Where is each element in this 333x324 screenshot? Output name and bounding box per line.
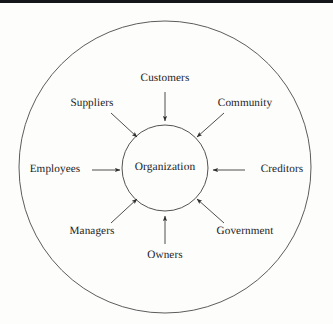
arrow-suppliers bbox=[111, 113, 137, 137]
stakeholder-label-employees: Employees bbox=[30, 164, 81, 175]
stakeholder-label-suppliers: Suppliers bbox=[70, 98, 113, 109]
arrow-community bbox=[197, 113, 224, 137]
diagram-canvas: Organization Customers Suppliers Communi… bbox=[0, 0, 333, 324]
stakeholder-label-customers: Customers bbox=[141, 73, 190, 84]
stakeholder-label-owners: Owners bbox=[147, 250, 182, 261]
stakeholder-label-government: Government bbox=[217, 226, 274, 237]
arrow-managers bbox=[111, 199, 137, 223]
stakeholder-label-managers: Managers bbox=[70, 226, 115, 237]
stakeholder-label-creditors: Creditors bbox=[261, 164, 304, 175]
organization-label: Organization bbox=[135, 162, 195, 173]
arrow-government bbox=[197, 199, 224, 223]
stakeholder-label-community: Community bbox=[218, 98, 272, 109]
